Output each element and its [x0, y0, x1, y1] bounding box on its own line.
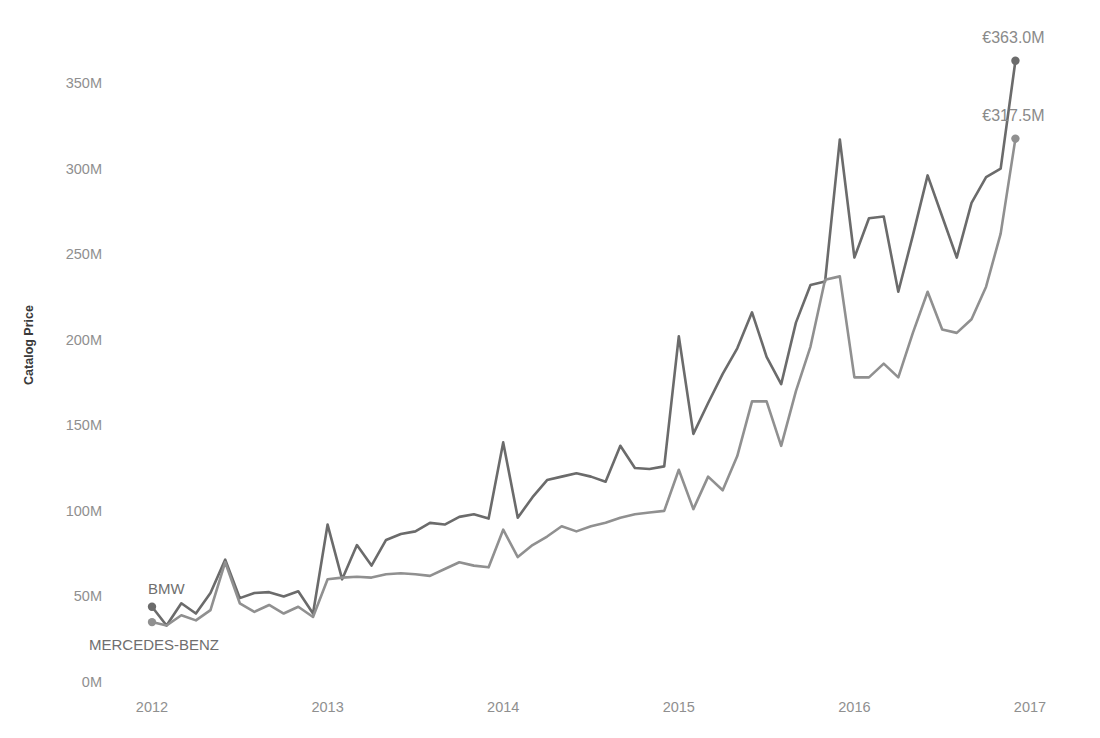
series-label-bmw: BMW	[148, 580, 186, 597]
end-value-label-mercedes-benz: €317.5M	[982, 107, 1044, 124]
x-axis-tick-labels: 201220132014201520162017	[136, 699, 1046, 715]
y-tick-0M: 0M	[82, 674, 102, 690]
line-mercedes-benz[interactable]	[152, 139, 1015, 626]
y-tick-250M: 250M	[66, 246, 102, 262]
x-tick-2014: 2014	[487, 699, 519, 715]
end-value-label-bmw: €363.0M	[982, 29, 1044, 46]
series-lines-group	[152, 61, 1015, 626]
line-bmw[interactable]	[152, 61, 1015, 626]
x-tick-2013: 2013	[311, 699, 343, 715]
end-point-mercedes-benz[interactable]	[1011, 134, 1019, 142]
start-point-bmw[interactable]	[148, 602, 156, 610]
line-chart: 0M50M100M150M200M250M300M350M 2012201320…	[0, 0, 1100, 738]
y-tick-200M: 200M	[66, 332, 102, 348]
x-tick-2017: 2017	[1014, 699, 1046, 715]
start-point-mercedes-benz[interactable]	[148, 618, 156, 626]
chart-canvas[interactable]: 0M50M100M150M200M250M300M350M 2012201320…	[0, 0, 1100, 738]
series-label-mercedes-benz: MERCEDES-BENZ	[89, 636, 219, 653]
series-endpoint-markers	[148, 57, 1020, 627]
x-tick-2012: 2012	[136, 699, 168, 715]
x-tick-2016: 2016	[838, 699, 870, 715]
y-tick-50M: 50M	[74, 588, 102, 604]
y-axis-title: Catalog Price	[22, 305, 36, 385]
y-tick-350M: 350M	[66, 75, 102, 91]
y-tick-300M: 300M	[66, 161, 102, 177]
series-inline-labels: BMW€363.0MMERCEDES-BENZ€317.5M	[89, 29, 1045, 653]
y-tick-150M: 150M	[66, 417, 102, 433]
end-point-bmw[interactable]	[1011, 57, 1019, 65]
x-tick-2015: 2015	[663, 699, 695, 715]
y-axis-tick-labels: 0M50M100M150M200M250M300M350M	[66, 75, 102, 690]
y-tick-100M: 100M	[66, 503, 102, 519]
